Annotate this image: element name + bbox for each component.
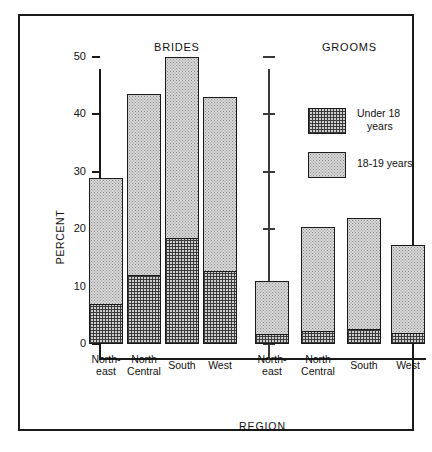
bar-segment-18-19-years	[128, 95, 160, 276]
bar-grooms-north-central	[301, 227, 335, 344]
plot-frame: BRIDES GROOMS 01020304050 North-eastNort…	[18, 14, 414, 431]
y-tick-40	[92, 113, 100, 115]
category-label-line2: Central	[301, 365, 335, 377]
bar-segment-under-18-years	[128, 276, 160, 343]
chart-figure: BRIDES GROOMS 01020304050 North-eastNort…	[0, 0, 432, 452]
y-tick-label-50: 50	[60, 51, 86, 62]
bar-segment-18-19-years	[392, 246, 424, 334]
bar-segment-18-19-years	[348, 219, 380, 330]
legend-label-under18-line2: years	[357, 120, 393, 133]
category-label-line2: east	[262, 365, 282, 377]
y-tick-label-40: 40	[60, 108, 86, 119]
bar-segment-18-19-years	[204, 98, 236, 271]
bar-grooms-north-east	[255, 281, 289, 344]
secondary-y-tick-40	[263, 113, 275, 115]
legend-label-1819: 18-19 years	[357, 157, 432, 170]
x-category-label-grooms-west: West	[375, 359, 432, 371]
legend-label-under18: Under 18 years	[357, 107, 432, 133]
y-tick-30	[92, 171, 100, 173]
category-label-line1: West	[208, 359, 232, 371]
bar-brides-south	[165, 57, 199, 344]
bar-segment-under-18-years	[256, 335, 288, 343]
bar-brides-north-central	[127, 94, 161, 344]
bar-segment-under-18-years	[392, 334, 424, 343]
legend-swatch-under18-icon	[308, 108, 346, 134]
bar-segment-18-19-years	[256, 282, 288, 335]
secondary-y-tick-50	[263, 56, 275, 58]
bar-grooms-south	[347, 218, 381, 344]
bar-segment-18-19-years	[166, 58, 198, 239]
y-axis-title: PERCENT	[54, 192, 66, 282]
category-label-line1: North-	[257, 353, 286, 365]
group-title-brides: BRIDES	[154, 41, 200, 53]
y-tick-label-0: 0	[60, 338, 86, 349]
y-tick-50	[92, 56, 100, 58]
group-title-grooms: GROOMS	[322, 41, 377, 53]
secondary-y-tick-30	[263, 171, 275, 173]
bar-segment-under-18-years	[348, 330, 380, 343]
bar-segment-under-18-years	[90, 305, 122, 343]
bar-brides-north-east	[89, 178, 123, 344]
legend-label-under18-line1: Under 18	[357, 107, 400, 119]
bar-segment-18-19-years	[302, 228, 334, 332]
bar-segment-under-18-years	[204, 272, 236, 343]
bar-brides-west	[203, 97, 237, 344]
legend-swatch-1819-icon	[308, 152, 346, 178]
category-label-line1: South	[350, 359, 377, 371]
category-label-line1: West	[396, 359, 420, 371]
category-label-line1: North	[305, 353, 331, 365]
x-axis-title: REGION	[99, 420, 426, 432]
y-tick-label-30: 30	[60, 166, 86, 177]
bar-grooms-west	[391, 245, 425, 344]
bar-segment-18-19-years	[90, 179, 122, 305]
bar-segment-under-18-years	[166, 239, 198, 343]
y-tick-label-10: 10	[60, 281, 86, 292]
secondary-y-tick-20	[263, 228, 275, 230]
bar-segment-under-18-years	[302, 332, 334, 343]
